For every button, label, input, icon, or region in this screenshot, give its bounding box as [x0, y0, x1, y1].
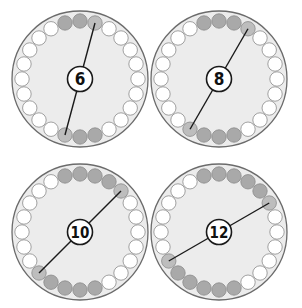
bead-empty	[23, 101, 37, 115]
bead-empty	[44, 175, 58, 189]
bead-shaded	[197, 128, 211, 142]
bead-empty	[183, 22, 197, 36]
bead-empty	[162, 101, 176, 115]
bead-shaded	[88, 281, 102, 295]
bead-empty	[241, 122, 255, 136]
bead-shaded	[58, 16, 72, 30]
bead-empty	[17, 240, 31, 254]
bead-shaded	[197, 16, 211, 30]
bead-empty	[129, 57, 143, 71]
bead-shaded	[88, 128, 102, 142]
bead-circles-diagram: 6 8 10 12	[0, 0, 302, 308]
bead-empty	[156, 240, 170, 254]
count-label: 10	[71, 224, 90, 242]
bead-empty	[15, 72, 29, 86]
bead-shaded	[58, 281, 72, 295]
bead-empty	[183, 175, 197, 189]
bead-empty	[23, 196, 37, 210]
bead-shaded	[88, 169, 102, 183]
bead-empty	[15, 225, 29, 239]
bead-shaded	[183, 275, 197, 289]
bead-empty	[262, 43, 276, 57]
bead-empty	[129, 87, 143, 101]
bead-shaded	[227, 128, 241, 142]
bead-shaded	[227, 16, 241, 30]
bead-empty	[114, 266, 128, 280]
bead-shaded	[212, 283, 226, 297]
bead-empty	[44, 122, 58, 136]
bead-empty	[162, 196, 176, 210]
bead-empty	[156, 210, 170, 224]
bead-shaded	[73, 14, 87, 28]
bead-empty	[156, 87, 170, 101]
bead-empty	[102, 22, 116, 36]
bead-empty	[268, 210, 282, 224]
bead-empty	[123, 254, 137, 268]
bead-empty	[268, 87, 282, 101]
bead-shaded	[58, 169, 72, 183]
bead-empty	[17, 57, 31, 71]
bead-empty	[23, 43, 37, 57]
bead-empty	[123, 101, 137, 115]
bead-empty	[123, 43, 137, 57]
bead-shaded	[212, 167, 226, 181]
bead-shaded	[253, 184, 267, 198]
bead-empty	[171, 31, 185, 45]
bead-empty	[123, 196, 137, 210]
bead-empty	[154, 72, 168, 86]
bead-shaded	[73, 283, 87, 297]
bead-empty	[270, 225, 284, 239]
bead-empty	[253, 113, 267, 127]
bead-empty	[114, 31, 128, 45]
bead-empty	[17, 210, 31, 224]
bead-empty	[253, 266, 267, 280]
bead-empty	[131, 225, 145, 239]
bead-shaded	[73, 167, 87, 181]
bead-empty	[102, 122, 116, 136]
bead-shaded	[212, 130, 226, 144]
bead-empty	[270, 72, 284, 86]
bead-empty	[253, 31, 267, 45]
bead-circle-6: 6	[12, 11, 148, 147]
bead-shaded	[171, 266, 185, 280]
bead-shaded	[241, 175, 255, 189]
bead-empty	[268, 57, 282, 71]
bead-empty	[114, 113, 128, 127]
bead-empty	[262, 254, 276, 268]
bead-shaded	[197, 169, 211, 183]
bead-empty	[268, 240, 282, 254]
bead-empty	[32, 184, 46, 198]
bead-circle-8: 8	[151, 11, 287, 147]
bead-empty	[241, 275, 255, 289]
bead-empty	[131, 72, 145, 86]
bead-empty	[171, 113, 185, 127]
bead-empty	[17, 87, 31, 101]
bead-shaded	[73, 130, 87, 144]
bead-empty	[162, 43, 176, 57]
bead-circle-12: 12	[151, 164, 287, 300]
bead-shaded	[227, 281, 241, 295]
bead-empty	[129, 210, 143, 224]
bead-shaded	[88, 16, 102, 30]
bead-empty	[32, 31, 46, 45]
bead-shaded	[102, 175, 116, 189]
count-label: 6	[75, 69, 86, 89]
bead-empty	[23, 254, 37, 268]
bead-empty	[32, 113, 46, 127]
bead-empty	[171, 184, 185, 198]
bead-empty	[262, 101, 276, 115]
count-label: 8	[214, 69, 225, 89]
bead-circle-10: 10	[12, 164, 148, 300]
bead-empty	[154, 225, 168, 239]
bead-shaded	[227, 169, 241, 183]
bead-shaded	[44, 275, 58, 289]
bead-empty	[129, 240, 143, 254]
bead-shaded	[212, 14, 226, 28]
bead-empty	[44, 22, 58, 36]
count-label: 12	[210, 224, 229, 242]
bead-empty	[102, 275, 116, 289]
bead-shaded	[197, 281, 211, 295]
bead-empty	[156, 57, 170, 71]
